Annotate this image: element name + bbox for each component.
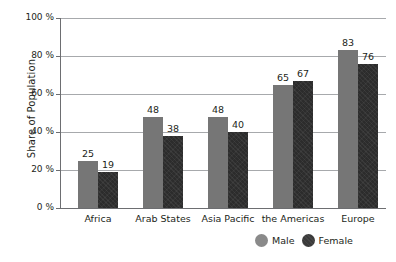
bar-europe-female[interactable] [358,64,378,208]
y-axis-tick-label: 100 % [0,12,54,22]
legend-label: Male [272,235,295,246]
bar-the-americas-female[interactable] [293,81,313,208]
x-axis-line [60,208,386,209]
legend: MaleFemale [255,234,353,247]
bar-chart: Share of Population 100 %80 %60 %40 %20 … [0,0,396,262]
bar-value-label: 40 [221,119,255,130]
legend-label: Female [319,235,353,246]
bar-value-label: 48 [136,104,170,115]
gridline [60,18,386,19]
bar-arab-states-female[interactable] [163,136,183,208]
bar-value-label: 38 [156,123,190,134]
bar-asia-pacific-female[interactable] [228,132,248,208]
plot-area: 25194838484065678376 [60,18,386,208]
bar-europe-male[interactable] [338,50,358,208]
bar-value-label: 48 [201,104,235,115]
bar-value-label: 67 [286,68,320,79]
y-axis-tick-label: 80 % [0,50,54,60]
legend-swatch-male-icon [255,234,268,247]
bar-the-americas-male[interactable] [273,85,293,209]
legend-item-male[interactable]: Male [255,234,295,247]
y-axis-tick-label: 40 % [0,126,54,136]
bar-value-label: 76 [351,51,385,62]
y-axis-tick-label: 60 % [0,88,54,98]
y-axis-line [60,18,61,209]
y-axis-tick-label: 0 % [0,202,54,212]
bar-africa-female[interactable] [98,172,118,208]
legend-item-female[interactable]: Female [302,234,353,247]
bar-value-label: 19 [91,159,125,170]
y-axis-tick-label: 20 % [0,164,54,174]
legend-swatch-female-icon [302,234,315,247]
bar-asia-pacific-male[interactable] [208,117,228,208]
bar-value-label: 83 [331,37,365,48]
x-axis-label-europe: Europe [316,213,396,224]
bar-value-label: 25 [71,148,105,159]
